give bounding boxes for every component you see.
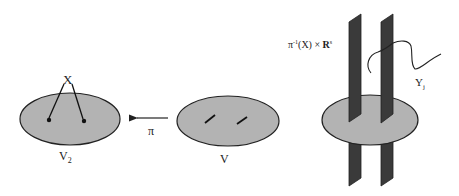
- plane-1-lower: [349, 140, 361, 186]
- plane-1-upper: [349, 14, 361, 122]
- plane-2-upper: [381, 14, 393, 123]
- v-ellipse: [177, 96, 279, 146]
- point-1: [47, 118, 51, 122]
- plane-2-lower: [381, 140, 393, 186]
- projection-arrow: π: [137, 118, 168, 138]
- curve-yj: [368, 41, 441, 73]
- fiber-space: π-1(X) × Rs Yj: [288, 14, 441, 186]
- v-label: V: [220, 152, 229, 166]
- pi-label: π: [148, 124, 154, 138]
- x-label: X: [63, 72, 73, 87]
- v2-label: V2: [59, 149, 72, 165]
- v2-space: X V2: [20, 72, 120, 165]
- fiber-ellipse: [322, 95, 418, 145]
- yj-label: Yj: [415, 76, 425, 91]
- fiber-label: π-1(X) × Rs: [288, 39, 333, 51]
- diagram-canvas: X V2 π V π-1(X) × Rs Yj: [0, 0, 459, 196]
- point-2: [82, 119, 86, 123]
- v-space: V: [177, 96, 279, 166]
- v2-ellipse: [20, 93, 120, 145]
